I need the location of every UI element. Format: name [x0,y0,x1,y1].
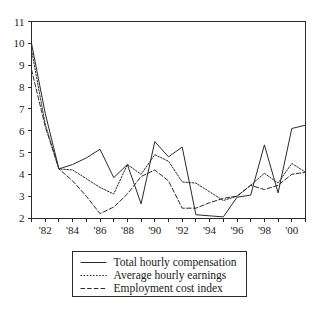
chart-legend: Total hourly compensationAverage hourly … [73,252,247,297]
legend-label-3: Employment cost index [114,282,223,295]
x-tick-label: '90 [148,224,161,236]
x-tick-label: '86 [94,224,107,236]
y-axis-ticks: 234567891011 [14,16,32,225]
legend-label-2: Average hourly earnings [114,269,227,282]
x-axis-ticks: '82'84'86'88'90'92'94'96'98'00 [32,218,306,236]
y-tick-label: 9 [19,59,25,71]
x-tick-label: '98 [258,224,271,236]
legend-label-1: Total hourly compensation [114,256,237,269]
y-tick-label: 5 [19,147,25,159]
plot-frame [32,22,306,219]
series-group [32,43,306,217]
y-tick-label: 4 [19,168,25,180]
x-tick-label: '84 [66,224,79,236]
x-tick-label: '82 [39,224,52,236]
y-tick-label: 10 [14,37,26,49]
y-tick-label: 11 [14,16,25,28]
x-tick-label: '94 [203,224,216,236]
y-tick-label: 8 [19,81,25,93]
series-line-2 [32,50,306,201]
y-tick-label: 3 [19,190,25,202]
x-tick-label: '92 [176,224,189,236]
series-line-1 [32,43,306,217]
x-tick-label: '88 [121,224,134,236]
y-tick-label: 7 [19,103,25,115]
x-tick-label: '96 [231,224,244,236]
y-tick-label: 2 [19,212,25,224]
line-chart: 234567891011 '82'84'86'88'90'92'94'96'98… [0,0,316,310]
y-tick-label: 6 [19,125,25,137]
series-line-3 [32,70,306,214]
chart-figure: 234567891011 '82'84'86'88'90'92'94'96'98… [0,0,316,310]
x-tick-label: '00 [285,224,298,236]
